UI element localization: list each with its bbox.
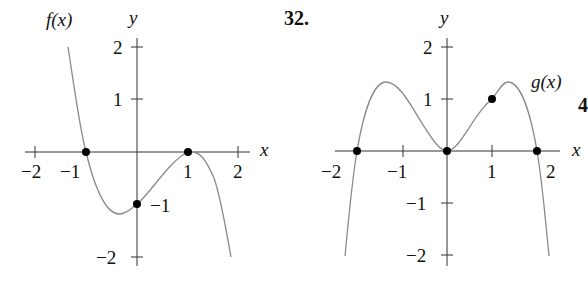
f-label: f(x) bbox=[46, 10, 72, 29]
right-ytick-neg1: −1 bbox=[406, 194, 426, 213]
left-x-axis-label: x bbox=[260, 140, 268, 159]
left-ytick-2: 2 bbox=[113, 38, 123, 57]
right-graph bbox=[335, 38, 560, 266]
left-xtick-2: 2 bbox=[233, 162, 243, 181]
left-xtick-neg2: −2 bbox=[21, 162, 41, 181]
g-point-dot-1-1 bbox=[488, 95, 496, 103]
right-xtick-2: 2 bbox=[546, 162, 556, 181]
g-label: g(x) bbox=[531, 72, 562, 91]
f-root-dot-neg1 bbox=[82, 148, 90, 156]
left-ytick-neg2: −2 bbox=[96, 248, 116, 267]
f-intercept-dot bbox=[133, 200, 141, 208]
right-xtick-1: 1 bbox=[487, 162, 497, 181]
left-xtick-1: 1 bbox=[183, 162, 193, 181]
g-root-dot-0 bbox=[443, 147, 451, 155]
right-y-axis-label: y bbox=[440, 8, 448, 27]
right-xtick-neg2: −2 bbox=[321, 162, 341, 181]
left-problem-bullet: • bbox=[0, 10, 1, 29]
g-root-dot-2 bbox=[533, 147, 541, 155]
problem-number-32: 32. bbox=[284, 8, 309, 28]
left-graph bbox=[25, 38, 250, 266]
left-y-axis-label: y bbox=[129, 8, 137, 27]
right-ytick-neg2: −2 bbox=[406, 246, 426, 265]
problem-number-edge: 4 bbox=[578, 95, 588, 115]
left-xtick-neg1: −1 bbox=[60, 162, 80, 181]
f-root-dot-1 bbox=[184, 148, 192, 156]
right-ytick-1: 1 bbox=[423, 90, 433, 109]
g-root-dot-neg2 bbox=[353, 147, 361, 155]
right-xtick-neg1: −1 bbox=[387, 162, 407, 181]
right-ytick-2: 2 bbox=[423, 38, 433, 57]
left-point-label-neg1: −1 bbox=[150, 196, 170, 215]
right-x-axis-label: x bbox=[572, 140, 580, 159]
left-ytick-1: 1 bbox=[113, 90, 123, 109]
